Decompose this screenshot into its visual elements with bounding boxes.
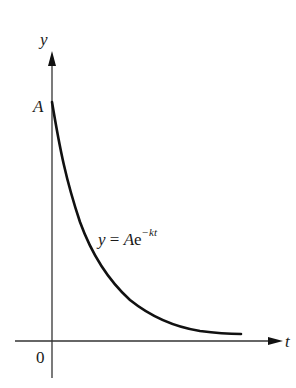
x-axis-arrowhead-icon [268,337,283,345]
origin-label: 0 [36,349,45,366]
decay-chart [0,0,296,388]
t-axis-label: t [285,333,290,350]
y-axis-label: y [40,31,48,48]
decay-curve [52,102,241,334]
y-axis-arrowhead-icon [48,51,56,66]
formula-equals: = [106,230,124,249]
formula-base: e [134,230,142,249]
formula-lhs: y [98,230,106,249]
formula-annotation: y = Ae−kt [98,229,157,248]
formula-coefficient: A [124,230,134,249]
formula-exponent: −kt [142,226,157,238]
intercept-label-A: A [33,98,43,115]
